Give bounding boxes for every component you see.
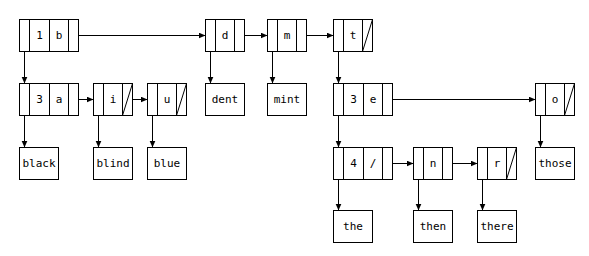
- count-label: 3: [36, 93, 43, 106]
- char-label: u: [164, 93, 171, 106]
- count-label: 3: [350, 93, 357, 106]
- word-label: blue: [154, 157, 181, 170]
- trie-node: i: [94, 84, 133, 116]
- nodes: 1bdmt3aiudentmint3eoblackblindblue4/nrth…: [20, 20, 575, 243]
- char-label: /: [370, 157, 377, 170]
- word-leaf: blue: [148, 148, 187, 180]
- word-leaf: dent: [206, 84, 245, 116]
- word-leaf: black: [20, 148, 59, 180]
- word-label: blind: [96, 157, 129, 170]
- char-label: d: [222, 29, 229, 42]
- trie-node: r: [478, 148, 517, 180]
- trie-node: m: [268, 20, 307, 52]
- count-label: 1: [36, 29, 43, 42]
- word-label: the: [343, 220, 363, 233]
- word-label: those: [538, 157, 571, 170]
- word-leaf: blind: [94, 148, 133, 180]
- trie-node: 1b: [20, 20, 79, 52]
- trie-node: t: [334, 20, 373, 52]
- trie-node: n: [414, 148, 453, 180]
- char-label: n: [430, 157, 437, 170]
- word-leaf: then: [414, 211, 453, 243]
- word-leaf: mint: [268, 84, 307, 116]
- char-label: b: [56, 29, 63, 42]
- char-label: t: [350, 29, 357, 42]
- word-label: black: [22, 157, 55, 170]
- trie-node: d: [206, 20, 245, 52]
- word-leaf: the: [334, 211, 373, 243]
- trie-diagram: 1bdmt3aiudentmint3eoblackblindblue4/nrth…: [0, 0, 589, 256]
- trie-node: 4/: [334, 148, 393, 180]
- count-label: 4: [350, 157, 357, 170]
- word-leaf: there: [478, 211, 517, 243]
- word-leaf: those: [536, 148, 575, 180]
- word-label: dent: [212, 93, 239, 106]
- edges: [25, 33, 541, 211]
- word-label: there: [480, 220, 513, 233]
- word-label: mint: [274, 93, 301, 106]
- trie-node: 3a: [20, 84, 79, 116]
- char-label: e: [370, 93, 377, 106]
- char-label: i: [110, 93, 117, 106]
- char-label: o: [552, 93, 559, 106]
- char-label: m: [284, 29, 291, 42]
- word-label: then: [420, 220, 447, 233]
- char-label: a: [56, 93, 63, 106]
- trie-node: u: [148, 84, 187, 116]
- char-label: r: [494, 157, 501, 170]
- trie-node: o: [536, 84, 575, 116]
- trie-node: 3e: [334, 84, 393, 116]
